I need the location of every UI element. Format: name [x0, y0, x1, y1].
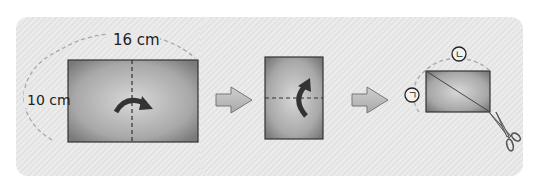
- step3-paper: [413, 58, 490, 112]
- step1-paper: [24, 33, 198, 142]
- scissors-icon: [489, 112, 522, 152]
- width-label: 16 cm: [113, 31, 160, 49]
- left-label: ㄱ: [408, 90, 417, 101]
- step2-paper: [265, 57, 323, 139]
- fold-diagram: 16 cm 10 cm ㄴ ㄱ: [0, 0, 549, 186]
- arrow-right-icon: [216, 87, 252, 113]
- height-label: 10 cm: [27, 92, 71, 108]
- top-label: ㄴ: [455, 49, 464, 60]
- arrow-right-icon: [352, 87, 388, 113]
